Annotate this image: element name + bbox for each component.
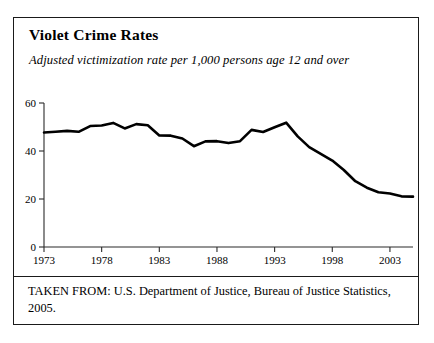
chart-subtitle: Adjusted victimization rate per 1,000 pe…	[29, 53, 349, 68]
data-series-violent-crime-rate	[44, 123, 413, 197]
chart-title: Violet Crime Rates	[29, 26, 159, 44]
x-axis: 1973197819831988199319982003	[33, 247, 413, 265]
figure-panel: Violet Crime Rates Adjusted victimizatio…	[13, 17, 419, 325]
source-note-container: TAKEN FROM: U.S. Department of Justice, …	[14, 276, 418, 324]
source-note: TAKEN FROM: U.S. Department of Justice, …	[14, 277, 418, 324]
x-tick-label: 1998	[321, 254, 344, 265]
y-tick-label: 0	[31, 241, 37, 253]
x-tick-label: 2003	[379, 254, 402, 265]
x-tick-label: 1983	[148, 254, 171, 265]
y-tick-label: 60	[25, 97, 37, 109]
x-tick-label: 1973	[33, 254, 56, 265]
y-axis: 0204060	[25, 97, 44, 253]
x-tick-label: 1993	[264, 254, 287, 265]
x-tick-label: 1978	[91, 254, 114, 265]
y-tick-label: 20	[25, 193, 37, 205]
line-chart: 0204060 1973197819831988199319982003	[14, 80, 420, 265]
chart-plot-area: 0204060 1973197819831988199319982003	[14, 80, 420, 265]
x-tick-label: 1988	[206, 254, 229, 265]
y-tick-label: 40	[25, 145, 37, 157]
